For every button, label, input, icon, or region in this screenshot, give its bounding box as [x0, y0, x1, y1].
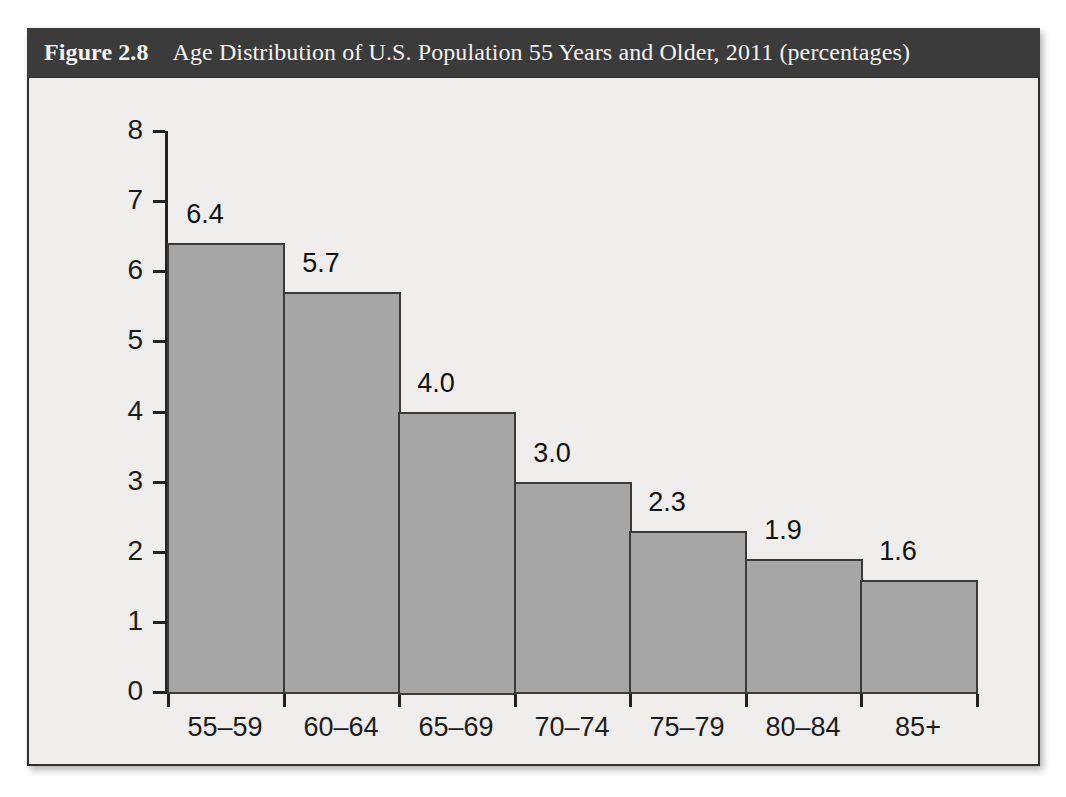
x-tick-mark — [860, 694, 863, 707]
x-tick-mark — [283, 694, 286, 707]
y-tick-label: 7 — [99, 186, 143, 214]
y-tick-label: 8 — [99, 116, 143, 144]
x-category-label: 60–64 — [283, 714, 399, 741]
bar[interactable] — [860, 580, 978, 694]
y-tick-mark — [153, 130, 165, 133]
bar-chart-plot: 012345678 6.45.74.03.02.31.91.6 55–5960–… — [29, 78, 1040, 766]
bar[interactable] — [283, 292, 401, 694]
x-tick-mark — [398, 694, 401, 707]
y-tick-label: 6 — [99, 256, 143, 284]
figure-title: Age Distribution of U.S. Population 55 Y… — [173, 39, 910, 66]
x-category-label: 80–84 — [745, 714, 861, 741]
y-tick-label: 5 — [99, 326, 143, 354]
figure-header: Figure 2.8 Age Distribution of U.S. Popu… — [27, 28, 1040, 77]
y-tick-mark — [153, 411, 165, 414]
y-tick-mark — [153, 481, 165, 484]
y-tick-label: 0 — [99, 677, 143, 705]
y-tick-label: 2 — [99, 537, 143, 565]
figure-number-label: Figure 2.8 — [44, 39, 149, 66]
y-tick-mark — [153, 340, 165, 343]
y-tick-mark — [153, 551, 165, 554]
x-tick-mark — [629, 694, 632, 707]
x-category-label: 70–74 — [514, 714, 630, 741]
x-category-label: 75–79 — [629, 714, 745, 741]
x-category-label: 65–69 — [398, 714, 514, 741]
bar-value-label: 1.9 — [725, 517, 841, 544]
chart-panel: 012345678 6.45.74.03.02.31.91.6 55–5960–… — [27, 77, 1040, 766]
bar-value-label: 2.3 — [609, 489, 725, 516]
x-tick-mark — [167, 694, 170, 707]
y-tick-mark — [153, 691, 165, 694]
y-tick-label: 3 — [99, 467, 143, 495]
bar[interactable] — [745, 559, 863, 694]
x-category-label: 85+ — [860, 714, 976, 741]
figure-frame: Figure 2.8 Age Distribution of U.S. Popu… — [27, 28, 1040, 766]
bar-value-label: 3.0 — [494, 440, 610, 467]
bar[interactable] — [167, 243, 285, 694]
bar-value-label: 6.4 — [147, 201, 263, 228]
y-tick-mark — [153, 621, 165, 624]
y-tick-label: 4 — [99, 397, 143, 425]
y-tick-label: 1 — [99, 607, 143, 635]
x-tick-mark — [745, 694, 748, 707]
x-category-label: 55–59 — [167, 714, 283, 741]
bar-value-label: 5.7 — [263, 250, 379, 277]
x-tick-mark — [514, 694, 517, 707]
y-tick-mark — [153, 270, 165, 273]
bar-value-label: 4.0 — [378, 370, 494, 397]
x-tick-mark — [976, 694, 979, 707]
bar[interactable] — [629, 531, 747, 694]
bar-value-label: 1.6 — [840, 538, 956, 565]
